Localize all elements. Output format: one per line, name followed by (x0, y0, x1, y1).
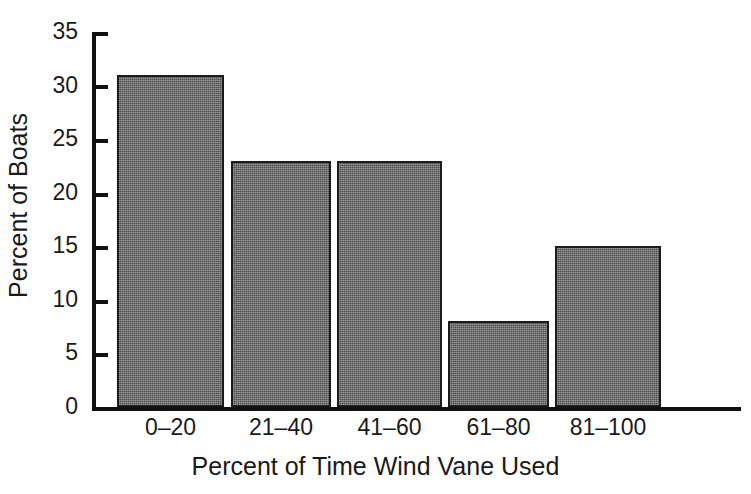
x-tick-label-81-100: 81–100 (555, 414, 661, 440)
x-axis-line (92, 407, 741, 411)
bar-21-40[interactable] (231, 161, 331, 407)
bar-chart-figure: Percent of Boats 35 30 25 20 15 10 5 0 0… (0, 0, 751, 494)
x-tick-label-0-20: 0–20 (117, 414, 224, 440)
plot-area (92, 32, 741, 407)
y-tick-label-15: 15 (34, 234, 78, 257)
x-axis-tick-labels: 0–20 21–40 41–60 61–80 81–100 (92, 414, 741, 444)
y-tick-label-20: 20 (34, 181, 78, 204)
bar-41-60[interactable] (337, 161, 442, 407)
y-tick-label-5: 5 (34, 341, 78, 364)
y-tick-label-25: 25 (34, 127, 78, 150)
bar-series (92, 32, 741, 407)
bar-61-80[interactable] (448, 321, 549, 407)
y-tick-label-10: 10 (34, 288, 78, 311)
bar-81-100[interactable] (555, 246, 661, 407)
y-tick-label-30: 30 (34, 74, 78, 97)
y-tick-label-35: 35 (34, 20, 78, 43)
bar-0-20[interactable] (117, 75, 224, 407)
x-tick-label-41-60: 41–60 (337, 414, 442, 440)
y-axis-title-text: Percent of Boats (4, 113, 33, 298)
y-tick-label-0: 0 (34, 395, 78, 418)
x-tick-label-61-80: 61–80 (448, 414, 549, 440)
y-axis-tick-labels: 35 30 25 20 15 10 5 0 (34, 0, 78, 494)
y-axis-title: Percent of Boats (0, 0, 36, 410)
x-tick-label-21-40: 21–40 (231, 414, 331, 440)
x-axis-title: Percent of Time Wind Vane Used (0, 452, 751, 481)
